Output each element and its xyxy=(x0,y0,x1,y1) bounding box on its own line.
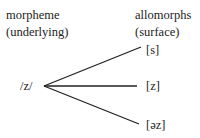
branch-line-schwa-z xyxy=(44,86,139,124)
branch-lines xyxy=(0,0,200,138)
branch-line-s xyxy=(44,47,141,86)
